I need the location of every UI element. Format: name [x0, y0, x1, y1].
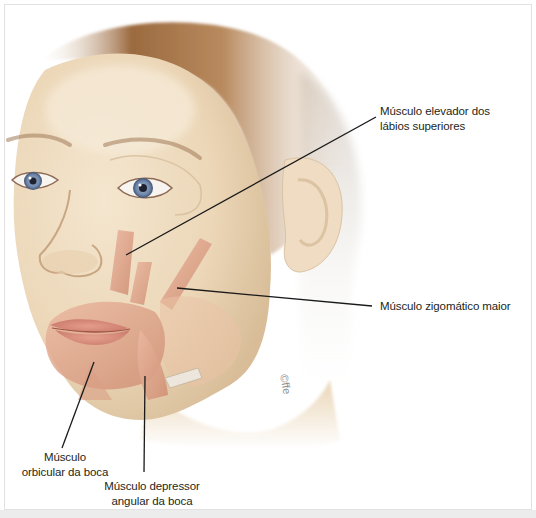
label-line-1: Músculo depressor	[96, 479, 208, 494]
face-illustration: ©ffe	[0, 0, 536, 518]
label-line-1: Músculo	[16, 450, 114, 465]
label-line-1: Músculo elevador dos	[380, 104, 490, 119]
label-line-2: orbicular da boca	[16, 465, 114, 480]
label-elevador-labios: Músculo elevador dos lábios superiores	[380, 104, 490, 134]
nose-tip	[42, 250, 98, 274]
label-line-2: lábios superiores	[380, 119, 490, 134]
label-line-2: angular da boca	[96, 494, 208, 509]
label-zigomatico-maior: Músculo zigomático maior	[380, 299, 511, 314]
label-orbicular-boca: Músculo orbicular da boca	[16, 450, 114, 480]
watermark: ©ffe	[278, 373, 293, 395]
label-depressor-angular: Músculo depressor angular da boca	[96, 479, 208, 509]
label-line-1: Músculo zigomático maior	[380, 299, 511, 314]
